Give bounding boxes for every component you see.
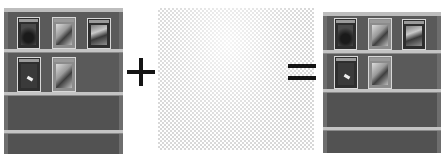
equals-bar-top — [288, 64, 316, 68]
magazine-cover — [87, 18, 111, 49]
result-bookshelf-image — [323, 12, 441, 153]
shelf-bay-4 — [327, 131, 437, 153]
magazine-cover — [52, 57, 76, 92]
magazine-cover — [368, 56, 392, 89]
shelf-bay-3 — [327, 93, 437, 127]
magazine-cover — [334, 18, 357, 50]
magazine-cover — [334, 56, 358, 89]
plus-bar-vertical — [139, 58, 143, 86]
magazine-cover — [402, 19, 426, 50]
shelf-bay-4 — [8, 134, 119, 154]
magazine-cover — [368, 18, 392, 50]
plus-operator — [126, 58, 156, 88]
magazine-cover — [52, 17, 76, 49]
magazine-cover — [17, 57, 41, 92]
equals-operator — [288, 62, 316, 82]
shelf-side-right — [437, 16, 441, 153]
equals-bar-bottom — [288, 76, 316, 80]
shelf-bay-3 — [8, 96, 119, 130]
left-bookshelf-image — [4, 8, 123, 154]
magazine-cover — [17, 17, 40, 49]
